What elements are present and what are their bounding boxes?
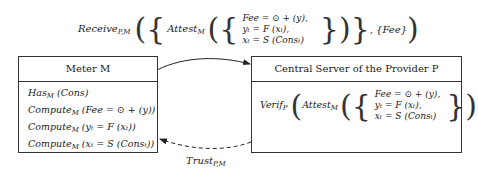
meter-title: Meter M xyxy=(19,57,157,82)
send-arrow xyxy=(157,59,250,70)
equation-stack: Fee = ⊙ + (y), yₜ = F (xₜ), xₜ = S (Cons… xyxy=(375,89,440,122)
meter-box: Meter M HasM (Cons) ComputeM (Fee = ⊙ + … xyxy=(18,56,158,153)
verif-func: VerifP xyxy=(260,99,287,112)
server-title: Central Server of the Provider P xyxy=(252,57,461,82)
meter-line: HasM (Cons) xyxy=(28,86,157,103)
meter-line: ComputeM (xₜ = S (Consₜ)) xyxy=(28,137,157,154)
attest-func: AttestM xyxy=(167,23,204,36)
meter-line: ComputeM (yₜ = F (xₜ)) xyxy=(28,120,157,137)
verif-formula: VerifP ( AttestM ( { Fee = ⊙ + (y), yₜ =… xyxy=(252,82,461,122)
fee-set: , {Fee} xyxy=(370,24,407,35)
server-box: Central Server of the Provider P VerifP … xyxy=(251,56,462,153)
receive-func: ReceiveP,M xyxy=(78,23,130,36)
equation-stack: Fee = ⊙ + (y), yₜ = F (xₜ), xₜ = S (Cons… xyxy=(242,13,307,46)
attest-func: AttestM xyxy=(302,99,338,112)
meter-line: ComputeM (Fee = ⊙ + (y)) xyxy=(28,103,157,120)
trust-label: TrustP,M xyxy=(186,155,226,168)
receive-formula: ReceiveP,M ( { AttestM ( { Fee = ⊙ + (y)… xyxy=(78,6,419,52)
trust-arrow xyxy=(160,139,251,148)
